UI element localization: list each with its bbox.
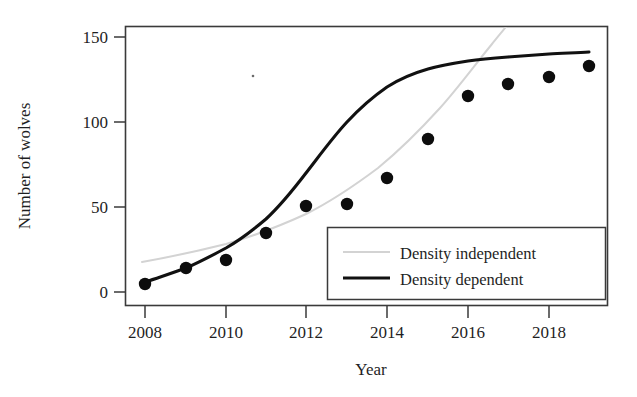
data-point	[422, 133, 434, 145]
data-point	[260, 227, 272, 239]
data-point	[381, 172, 393, 184]
wolf-population-figure: 150 100 50 0 2008 2010 2012 2014 2016 20…	[0, 0, 637, 397]
plot-interior: Density independent Density dependent	[139, 4, 606, 300]
data-point	[139, 278, 151, 290]
scan-speck	[252, 75, 255, 78]
y-axis-tick-labels: 150 100 50 0	[83, 28, 109, 302]
data-point	[502, 78, 514, 90]
x-axis-title: Year	[355, 360, 387, 379]
x-tick-label-2008: 2008	[128, 323, 162, 342]
density-independent-curve	[142, 4, 524, 262]
legend-label-density-dependent: Density dependent	[400, 270, 524, 289]
x-tick-label-2016: 2016	[451, 323, 485, 342]
data-point	[462, 90, 474, 102]
data-point	[583, 60, 595, 72]
chart-legend: Density independent Density dependent	[328, 228, 606, 300]
legend-label-density-independent: Density independent	[400, 244, 537, 263]
x-axis-ticks	[145, 306, 549, 318]
data-point	[180, 262, 192, 274]
y-tick-label-150: 150	[83, 28, 109, 47]
chart-canvas: 150 100 50 0 2008 2010 2012 2014 2016 20…	[0, 0, 637, 397]
x-tick-label-2014: 2014	[370, 323, 405, 342]
y-tick-label-100: 100	[83, 113, 109, 132]
y-axis-ticks	[114, 37, 125, 292]
data-point	[543, 71, 555, 83]
y-tick-label-50: 50	[91, 198, 108, 217]
x-tick-label-2012: 2012	[289, 323, 323, 342]
x-axis-tick-labels: 2008 2010 2012 2014 2016 2018	[128, 323, 566, 342]
data-point	[220, 254, 232, 266]
y-axis-title: Number of wolves	[15, 103, 34, 230]
y-tick-label-0: 0	[100, 283, 109, 302]
x-tick-label-2010: 2010	[209, 323, 243, 342]
x-tick-label-2018: 2018	[532, 323, 566, 342]
data-point	[341, 198, 353, 210]
data-point	[300, 200, 312, 212]
